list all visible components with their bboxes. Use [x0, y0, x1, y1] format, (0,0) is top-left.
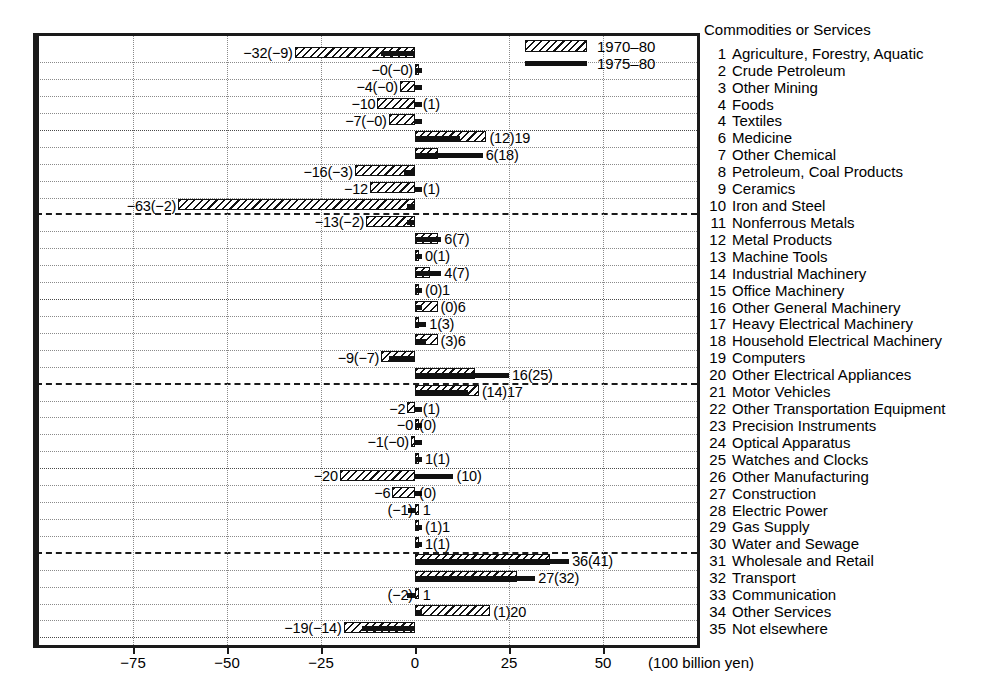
category-label: Ceramics	[732, 180, 795, 197]
gridline-horizontal	[36, 502, 697, 503]
category-number: 4	[704, 113, 726, 129]
category-label: Computers	[732, 349, 805, 366]
category-number: 9	[704, 181, 726, 197]
gridline-horizontal	[36, 587, 697, 588]
category-label: Textiles	[732, 112, 782, 129]
category-number: 31	[704, 553, 726, 569]
category-row-29[interactable]: 29Gas Supply	[704, 519, 810, 535]
category-row-27[interactable]: 27Construction	[704, 486, 816, 502]
bar-value-label: 1(1)	[425, 537, 450, 551]
category-row-21[interactable]: 21Motor Vehicles	[704, 384, 830, 400]
category-row-10[interactable]: 10Iron and Steel	[704, 198, 825, 214]
bar-value-label: 27(32)	[538, 571, 579, 585]
bar-value-label: −16(−3)	[303, 165, 352, 179]
bar-1970-80	[392, 487, 415, 498]
category-row-28[interactable]: 28Electric Power	[704, 503, 828, 519]
category-row-26[interactable]: 26Other Manufacturing	[704, 469, 869, 485]
gridline-horizontal	[36, 367, 697, 368]
bar-1975-80	[415, 390, 468, 395]
category-row-9[interactable]: 9Ceramics	[704, 181, 795, 197]
category-number: 16	[704, 300, 726, 316]
bar-value-label: −2	[389, 402, 405, 416]
category-row-16[interactable]: 16Other General Machinery	[704, 300, 900, 316]
category-number: 17	[704, 316, 726, 332]
bar-1975-80	[415, 136, 460, 141]
category-number: 18	[704, 333, 726, 349]
bar-value-label: −10	[351, 97, 375, 111]
gridline-horizontal	[36, 451, 697, 452]
bar-1975-80	[415, 525, 422, 530]
category-label: Electric Power	[732, 502, 828, 519]
bar-1975-80	[415, 542, 422, 547]
category-row-24[interactable]: 24Optical Apparatus	[704, 435, 850, 451]
category-label: Machine Tools	[732, 248, 828, 265]
category-row-8[interactable]: 8Petroleum, Coal Products	[704, 164, 903, 180]
category-row-2[interactable]: 2Crude Petroleum	[704, 63, 845, 79]
bar-1975-80	[415, 254, 422, 259]
category-label: Other Electrical Appliances	[732, 366, 911, 383]
category-row-31[interactable]: 31Wholesale and Retail	[704, 553, 874, 569]
bar-value-label-secondary: (1)	[423, 97, 440, 111]
bar-value-label: −19(−14)	[284, 621, 341, 635]
category-row-11[interactable]: 11Nonferrous Metals	[704, 215, 855, 231]
category-label: Other Mining	[732, 79, 818, 96]
bar-1970-80	[389, 114, 415, 125]
category-row-14[interactable]: 14Industrial Machinery	[704, 266, 866, 282]
category-row-7[interactable]: 7Other Chemical	[704, 147, 836, 163]
gridline-horizontal	[36, 130, 697, 131]
category-label: Gas Supply	[732, 518, 810, 535]
category-row-12[interactable]: 12Metal Products	[704, 232, 832, 248]
category-label: Industrial Machinery	[732, 265, 866, 282]
category-row-22[interactable]: 22Other Transportation Equipment	[704, 401, 945, 417]
category-label: Not elsewhere	[732, 620, 828, 637]
x-axis-tick-label: 25	[501, 655, 518, 671]
category-row-1[interactable]: 1Agriculture, Forestry, Aquatic	[704, 46, 923, 62]
bar-1975-80	[415, 457, 422, 462]
gridline-horizontal	[36, 316, 697, 317]
bar-1975-80	[415, 68, 422, 73]
category-row-13[interactable]: 13Machine Tools	[704, 249, 828, 265]
category-label: Other Chemical	[732, 146, 836, 163]
bar-1975-80	[415, 576, 535, 581]
category-row-3[interactable]: 3Other Mining	[704, 80, 818, 96]
category-label: Metal Products	[732, 231, 832, 248]
category-row-35[interactable]: 35Not elsewhere	[704, 621, 828, 637]
category-number: 27	[704, 486, 726, 502]
category-row-19[interactable]: 19Computers	[704, 350, 805, 366]
category-row-25[interactable]: 25Watches and Clocks	[704, 452, 868, 468]
bar-value-label: 6(7)	[444, 232, 469, 246]
category-number: 2	[704, 63, 726, 79]
category-label: Other Services	[732, 603, 831, 620]
gridline-horizontal	[36, 536, 697, 537]
bar-1975-80	[415, 474, 453, 479]
category-row-15[interactable]: 15Office Machinery	[704, 283, 844, 299]
gridline-horizontal	[36, 401, 697, 402]
category-number: 26	[704, 469, 726, 485]
category-label: Nonferrous Metals	[732, 214, 855, 231]
category-row-6[interactable]: 6Medicine	[704, 130, 792, 146]
bar-value-label-secondary: (1)	[423, 402, 440, 416]
category-row-32[interactable]: 32Transport	[704, 570, 796, 586]
bar-1975-80	[415, 85, 422, 90]
category-row-4[interactable]: 4Foods	[704, 97, 774, 113]
bar-value-label: −0(−0)	[371, 63, 413, 77]
category-label: Transport	[732, 569, 796, 586]
category-row-20[interactable]: 20Other Electrical Appliances	[704, 367, 911, 383]
chart-canvas: −32(−9)−0(−0)−4(−0)−10(1)−7(−0)(12)196(1…	[0, 0, 1003, 696]
bar-value-label: (1)20	[493, 605, 526, 619]
legend-entry-1970-80: 1970–80	[525, 38, 695, 55]
gridline-horizontal	[36, 299, 697, 300]
category-row-17[interactable]: 17Heavy Electrical Machinery	[704, 316, 913, 332]
legend-label-1970-80: 1970–80	[597, 38, 655, 55]
category-row-23[interactable]: 23Precision Instruments	[704, 418, 876, 434]
bar-value-label: 1(1)	[425, 452, 450, 466]
category-row-18[interactable]: 18Household Electrical Machinery	[704, 333, 942, 349]
category-panel: Commodities or Services 1Agriculture, Fo…	[704, 22, 1003, 41]
category-row-30[interactable]: 30Water and Sewage	[704, 536, 859, 552]
category-row-4[interactable]: 4Textiles	[704, 113, 782, 129]
category-number: 6	[704, 130, 726, 146]
bar-value-label: 36(41)	[572, 554, 613, 568]
category-row-34[interactable]: 34Other Services	[704, 604, 831, 620]
category-row-33[interactable]: 33Communication	[704, 587, 836, 603]
category-number: 14	[704, 266, 726, 282]
